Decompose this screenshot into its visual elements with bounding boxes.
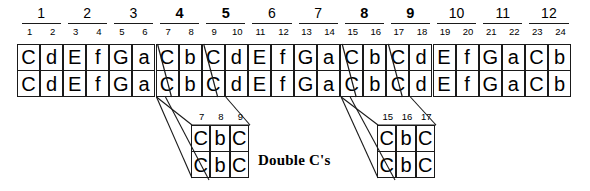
callout-left-cell-bottom-3: C — [230, 151, 249, 179]
measure-number-5: 5 — [203, 6, 249, 24]
beat-number-18: 18 — [410, 25, 433, 39]
note-cell-bottom-18: d — [409, 70, 432, 98]
callout-right-cell-top-2: b — [396, 125, 415, 152]
beat-number-10: 10 — [226, 25, 249, 39]
note-cell-top-24: b — [548, 44, 571, 71]
measure-number-8: 8 — [341, 6, 387, 24]
measure-number-12: 12 — [526, 6, 572, 24]
callout-left-cell-top-1: C — [191, 125, 210, 152]
beat-number-20: 20 — [457, 25, 480, 39]
beat-number-8: 8 — [180, 25, 203, 39]
note-row-bottom: CdEfGaCbCdEfGaCbCdEfGaCb — [18, 71, 572, 98]
callout-left-grid: CbC CbC — [192, 125, 250, 178]
note-cell-bottom-13: G — [294, 70, 317, 98]
note-cell-bottom-20: f — [456, 70, 479, 98]
callout-left-cell-bottom-2: b — [210, 151, 229, 179]
note-cell-bottom-15: C — [340, 70, 363, 98]
note-cell-bottom-4: f — [86, 70, 109, 98]
note-cell-top-10: d — [225, 44, 248, 71]
beat-number-3: 3 — [64, 25, 87, 39]
note-cell-top-7: C — [156, 44, 179, 71]
note-cell-top-6: a — [132, 44, 155, 71]
note-cell-top-20: f — [456, 44, 479, 71]
callout-right-row-top: CbC — [378, 125, 436, 152]
note-cell-top-18: d — [409, 44, 432, 71]
beat-number-17: 17 — [387, 25, 410, 39]
measure-number-7: 7 — [295, 6, 341, 24]
note-cell-bottom-19: E — [433, 70, 456, 98]
measure-number-6: 6 — [249, 6, 295, 24]
callout-right-row-bottom: CbC — [378, 152, 436, 179]
beat-number-2: 2 — [41, 25, 64, 39]
callout-right-cell-bottom-2: b — [396, 151, 415, 179]
note-row-top: CdEfGaCbCdEfGaCbCdEfGaCb — [18, 44, 572, 71]
note-cell-bottom-10: d — [225, 70, 248, 98]
callout-left-cell-bottom-1: C — [191, 151, 210, 179]
note-cell-bottom-14: a — [317, 70, 340, 98]
callout-right-beat-row: 151617 — [378, 110, 436, 124]
measure-number-2: 2 — [64, 6, 110, 24]
note-cell-top-19: E — [433, 44, 456, 71]
beat-number-4: 4 — [87, 25, 110, 39]
note-cell-top-8: b — [179, 44, 202, 71]
beat-number-21: 21 — [480, 25, 503, 39]
callout-left-beat-row: 789 — [192, 110, 250, 124]
note-cell-top-16: b — [363, 44, 386, 71]
callout-right-cell-top-3: C — [416, 125, 435, 152]
beat-number-7: 7 — [157, 25, 180, 39]
beat-number-9: 9 — [203, 25, 226, 39]
note-cell-bottom-16: b — [363, 70, 386, 98]
note-cell-bottom-17: C — [386, 70, 409, 98]
callout-right-cell-top-1: C — [377, 125, 396, 152]
note-cell-top-14: a — [317, 44, 340, 71]
note-cell-top-13: G — [294, 44, 317, 71]
note-cell-bottom-24: b — [548, 70, 571, 98]
music-scale-diagram: 123456789101112 123456789101112131415161… — [0, 0, 590, 191]
measure-number-9: 9 — [387, 6, 433, 24]
note-cell-top-15: C — [340, 44, 363, 71]
note-cell-bottom-1: C — [17, 70, 40, 98]
callout-left-beat-9: 9 — [231, 110, 250, 124]
beat-number-6: 6 — [133, 25, 156, 39]
beat-number-11: 11 — [249, 25, 272, 39]
note-cell-bottom-7: C — [156, 70, 179, 98]
measure-number-4: 4 — [157, 6, 203, 24]
note-cell-top-17: C — [386, 44, 409, 71]
callout-left-row-top: CbC — [192, 125, 250, 152]
leader-left-top-a — [157, 97, 193, 125]
note-cell-bottom-3: E — [63, 70, 86, 98]
callout-left-beat-7: 7 — [192, 110, 211, 124]
note-cell-bottom-21: G — [479, 70, 502, 98]
note-cell-top-23: C — [525, 44, 548, 71]
beat-number-22: 22 — [503, 25, 526, 39]
callout-left-cell-top-3: C — [230, 125, 249, 152]
leader-right-top-a — [341, 97, 378, 125]
note-cell-top-21: G — [479, 44, 502, 71]
beat-number-row: 123456789101112131415161718192021222324 — [18, 25, 572, 39]
beat-number-19: 19 — [434, 25, 457, 39]
double-cs-label: Double C's — [258, 152, 330, 169]
note-cell-bottom-8: b — [179, 70, 202, 98]
leader-right-bottom-a — [341, 97, 378, 178]
note-cell-bottom-12: f — [271, 70, 294, 98]
beat-number-16: 16 — [364, 25, 387, 39]
note-cell-top-1: C — [17, 44, 40, 71]
callout-left-beat-8: 8 — [211, 110, 230, 124]
leader-left-bottom-a — [157, 97, 193, 178]
beat-number-5: 5 — [110, 25, 133, 39]
callout-left-row-bottom: CbC — [192, 152, 250, 179]
callout-right-beat-15: 15 — [378, 110, 397, 124]
note-cell-top-2: d — [40, 44, 63, 71]
main-note-grid: CdEfGaCbCdEfGaCbCdEfGaCb CdEfGaCbCdEfGaC… — [18, 44, 572, 97]
beat-number-15: 15 — [341, 25, 364, 39]
measure-number-3: 3 — [110, 6, 156, 24]
note-cell-top-22: a — [502, 44, 525, 71]
note-cell-top-4: f — [86, 44, 109, 71]
callout-right-beat-17: 17 — [417, 110, 436, 124]
note-cell-top-11: E — [248, 44, 271, 71]
callout-right-cell-bottom-1: C — [377, 151, 396, 179]
measure-number-11: 11 — [480, 6, 526, 24]
beat-number-1: 1 — [18, 25, 41, 39]
note-cell-top-3: E — [63, 44, 86, 71]
callout-left-cell-top-2: b — [210, 125, 229, 152]
